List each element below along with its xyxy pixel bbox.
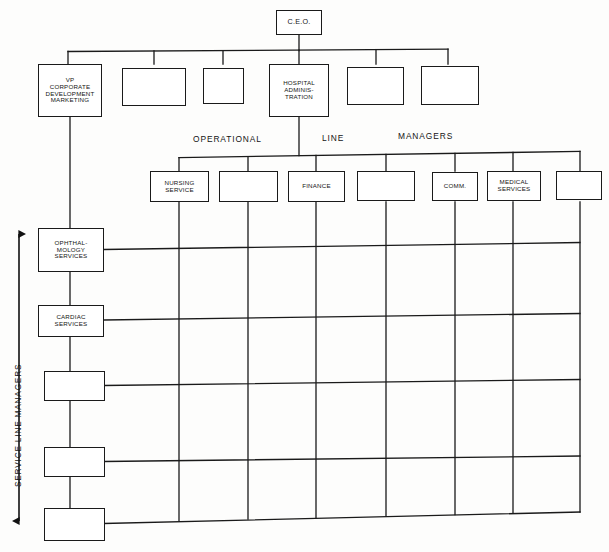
node-nursing-service-label: NURSING SERVICE <box>164 180 196 194</box>
node-cardiac-services-label: CARDIAC SERVICES <box>54 314 89 328</box>
node-finance[interactable]: FINANCE <box>288 171 345 202</box>
node-medical-services-label: MEDICAL SERVICES <box>497 179 532 193</box>
node-op-blank-3[interactable] <box>556 171 602 200</box>
org-chart-diagram: C.E.O. VP CORPORATE DEVELOPMENT MARKETIN… <box>0 0 609 552</box>
node-hospital-administration[interactable]: HOSPITAL ADMINIS- TRATION <box>269 64 329 117</box>
node-nursing-service[interactable]: NURSING SERVICE <box>150 171 209 202</box>
node-ophthalmology-services[interactable]: OPHTHAL- MOLOGY SERVICES <box>38 228 104 272</box>
node-vp-blank-3[interactable] <box>347 67 404 105</box>
node-ceo-label: C.E.O. <box>287 18 312 26</box>
band-label-line: LINE <box>322 133 344 143</box>
node-vp-corporate-development[interactable]: VP CORPORATE DEVELOPMENT MARKETING <box>38 64 102 117</box>
node-slm-blank-3[interactable] <box>44 508 105 541</box>
axis-label-service-line-managers: SERVICE LINE MANAGERS <box>14 364 23 487</box>
node-vp-blank-2[interactable] <box>203 68 244 104</box>
node-medical-services[interactable]: MEDICAL SERVICES <box>487 171 541 201</box>
node-slm-blank-2[interactable] <box>44 447 105 477</box>
node-slm-blank-1[interactable] <box>44 371 105 401</box>
node-ophthalmology-services-label: OPHTHAL- MOLOGY SERVICES <box>54 240 89 261</box>
node-comm-label: COMM. <box>443 183 467 190</box>
node-vp-blank-1[interactable] <box>122 68 186 106</box>
node-vp-blank-4[interactable] <box>421 66 479 105</box>
band-label-operational: OPERATIONAL <box>193 134 262 144</box>
node-comm[interactable]: COMM. <box>432 172 478 201</box>
node-ceo[interactable]: C.E.O. <box>276 10 322 35</box>
band-label-managers: MANAGERS <box>398 131 453 141</box>
node-cardiac-services[interactable]: CARDIAC SERVICES <box>38 305 104 337</box>
node-op-blank-1[interactable] <box>219 171 278 202</box>
node-hospital-administration-label: HOSPITAL ADMINIS- TRATION <box>282 80 316 101</box>
node-vp-corporate-development-label: VP CORPORATE DEVELOPMENT MARKETING <box>45 77 96 105</box>
node-finance-label: FINANCE <box>301 183 332 190</box>
node-op-blank-2[interactable] <box>357 171 415 201</box>
